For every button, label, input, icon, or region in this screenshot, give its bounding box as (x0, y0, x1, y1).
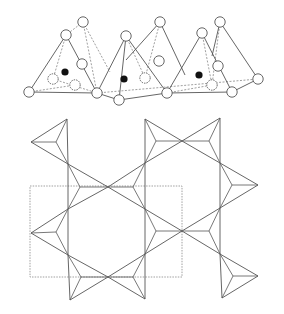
tetrahedron (220, 163, 258, 208)
tetrahedron (68, 164, 108, 209)
tetrahedron (145, 209, 182, 254)
tetrahedron-base (182, 118, 220, 163)
tetrahedron (108, 254, 145, 299)
tetrahedron (182, 208, 220, 254)
tetrahedron-base (68, 255, 108, 300)
tetrahedron-base (108, 254, 145, 299)
unit-cell-outline (30, 186, 182, 277)
tetrahedron-base (68, 164, 108, 209)
tetrahedron-base (31, 119, 68, 164)
tetrahedron (220, 254, 258, 298)
tetrahedral-ring-plan-view (0, 0, 284, 314)
silicate-structure-figure (0, 0, 284, 314)
tetrahedron-base (145, 209, 182, 254)
tetrahedron (31, 119, 68, 164)
tetrahedron (68, 255, 108, 300)
tetrahedron-base (220, 163, 258, 208)
tetrahedron (31, 209, 68, 255)
tetrahedron (145, 119, 182, 163)
tetrahedron (182, 118, 220, 163)
apex-edge (31, 232, 56, 233)
